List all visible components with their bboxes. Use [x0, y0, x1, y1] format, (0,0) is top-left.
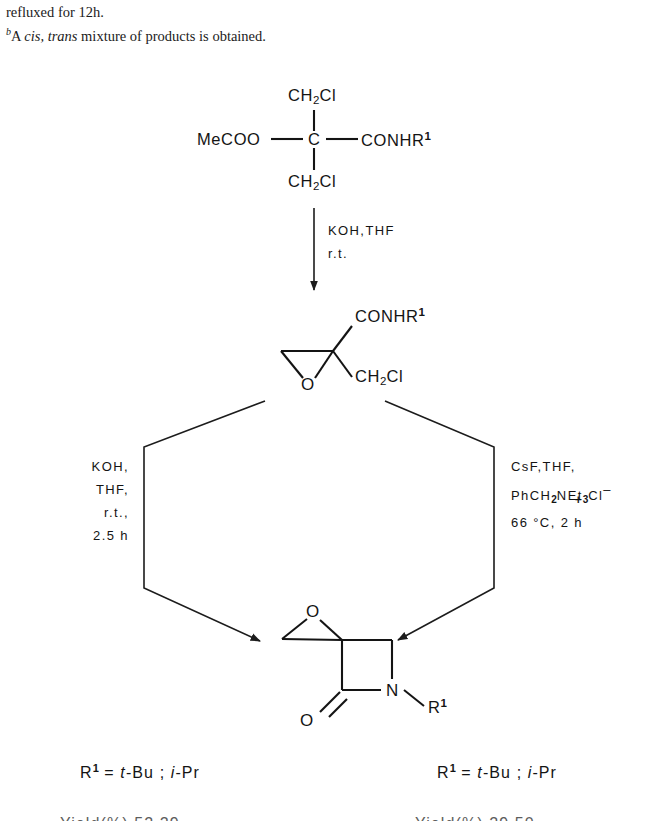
yield-row-right-clipped: Yield(%) 29 50: [415, 815, 655, 821]
right-branch-reagents-line2: PhCH2NEt+3Cl–: [511, 478, 611, 511]
product-carbonyl-oxygen-label: O: [300, 711, 314, 731]
step1-reagents-line1: KOH,THF: [328, 219, 395, 242]
product-nitrogen-label: N: [386, 681, 399, 701]
intermediate-chloromethyl-label: CH2Cl: [355, 367, 403, 387]
scheme-drawing-layer: [0, 0, 655, 821]
sm-quaternary-carbon-label: C: [308, 130, 321, 149]
step1-reagents-line2: r.t.: [328, 242, 395, 265]
left-branch-reagents-line3: r.t.,: [34, 501, 129, 524]
step1-reagents: KOH,THF r.t.: [328, 219, 395, 265]
left-branch-arrow: [144, 401, 265, 641]
left-branch-reagents-line4: 2.5 h: [34, 524, 129, 547]
right-branch-reagents-line3: 66 °C, 2 h: [511, 511, 611, 534]
left-branch-reagents: KOH, THF, r.t., 2.5 h: [34, 455, 129, 547]
product-bonds: [282, 619, 424, 717]
sm-bottom-chloromethyl-label: CH2Cl: [288, 172, 336, 192]
intermediate-amide-label: CONHR1: [355, 306, 425, 326]
sm-acetoxy-label: MeCOO: [197, 130, 261, 149]
sm-amide-label: CONHR1: [361, 130, 431, 150]
product-substituent-label: R1: [428, 697, 447, 717]
product-epoxide-oxygen-label: O: [306, 602, 320, 622]
chloride-minus-charge: –: [603, 482, 610, 497]
legend-left-substituents: R1 = t-Bu ; i-Pr: [80, 762, 200, 782]
intermediate-bonds: [281, 326, 352, 378]
intermediate-epoxide-oxygen-label: O: [301, 375, 315, 395]
yield-row-left-clipped: Yield(%) 52 29: [60, 815, 320, 821]
right-branch-reagents: CsF,THF, PhCH2NEt+3Cl– 66 °C, 2 h: [511, 455, 611, 534]
right-branch-arrow: [385, 401, 494, 640]
reaction-scheme-page: refluxed for 12h. bA cis, trans mixture …: [0, 0, 655, 821]
left-branch-reagents-line1: KOH,: [34, 455, 129, 478]
left-branch-reagents-line2: THF,: [34, 478, 129, 501]
legend-right-substituents: R1 = t-Bu ; i-Pr: [437, 762, 557, 782]
sm-top-chloromethyl-label: CH2Cl: [288, 86, 336, 106]
right-branch-reagents-line1: CsF,THF,: [511, 455, 611, 478]
